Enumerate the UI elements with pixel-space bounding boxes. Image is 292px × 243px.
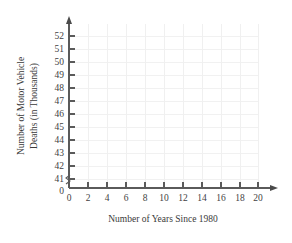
x-tick-labels: 0 2 4 6 8 10 12 14 16 18 20	[67, 193, 263, 203]
y-tick-label: 46	[55, 109, 65, 119]
x-axis-title: Number of Years Since 1980	[108, 214, 218, 224]
y-axis-title-line2: Deaths (in Thousands)	[29, 63, 40, 149]
x-tick-label: 14	[197, 193, 207, 203]
x-tick-label: 0	[67, 193, 72, 203]
x-tick-label: 8	[143, 193, 148, 203]
x-tick-label: 10	[159, 193, 169, 203]
y-tick-label: 51	[55, 44, 65, 54]
y-tick-label: 41	[55, 174, 65, 184]
coordinate-grid-chart: 52 51 50 49 48 47 46 45 44 43 42 41 0 0 …	[0, 0, 292, 243]
chart-container: 52 51 50 49 48 47 46 45 44 43 42 41 0 0 …	[0, 0, 292, 243]
y-tick-label: 43	[55, 148, 65, 158]
y-tick-label: 48	[55, 83, 65, 93]
x-tick-label: 2	[86, 193, 91, 203]
x-tick-label: 6	[124, 193, 129, 203]
x-tick-label: 18	[235, 193, 245, 203]
y-tick-label: 42	[55, 161, 65, 171]
y-tick-labels: 52 51 50 49 48 47 46 45 44 43 42 41 0	[55, 31, 65, 196]
y-axis-title-line1: Number of Motor Vehicle	[16, 57, 26, 155]
y-tick-label: 45	[55, 122, 65, 132]
y-tick-label: 50	[55, 57, 65, 67]
y-tick-label: 44	[55, 135, 65, 145]
y-tick-label-zero: 0	[59, 186, 64, 196]
x-tick-label: 4	[105, 193, 110, 203]
x-tick-label: 20	[253, 193, 263, 203]
y-tick-label: 47	[55, 96, 65, 106]
x-axis-arrow-icon	[270, 185, 278, 191]
x-tick-label: 16	[216, 193, 226, 203]
y-tick-label: 52	[55, 31, 65, 41]
x-tick-label: 12	[178, 193, 188, 203]
y-axis-arrow-icon	[66, 16, 72, 24]
y-tick-label: 49	[55, 70, 65, 80]
